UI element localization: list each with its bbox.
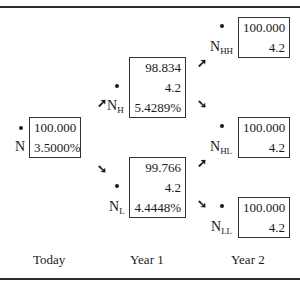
- node-nhh-price: 100.000: [243, 18, 285, 38]
- node-nhl-coupon: 4.2: [243, 138, 285, 158]
- node-label-nl: NL: [109, 199, 125, 219]
- arrow-up-icon: ➚: [197, 157, 207, 169]
- node-dot-nhl: [220, 124, 224, 128]
- node-nh-coupon: 4.2: [134, 78, 181, 98]
- node-box-nhh: 100.000 4.2: [238, 17, 290, 58]
- node-label-nll: NLL: [211, 219, 232, 239]
- node-nl-rate: 4.4448%: [134, 198, 181, 218]
- arrow-up-icon: ➚: [197, 57, 207, 69]
- node-nh-price: 98.834: [134, 58, 181, 78]
- arrow-down-icon: ➘: [97, 163, 107, 175]
- arrow-up-icon: ➚: [97, 97, 107, 109]
- arrow-down-icon: ➘: [197, 98, 207, 110]
- node-nhh-coupon: 4.2: [243, 38, 285, 58]
- node-nll-price: 100.000: [243, 198, 285, 218]
- node-dot-nl: [115, 184, 119, 188]
- node-nl-coupon: 4.2: [134, 178, 181, 198]
- node-box-nhl: 100.000 4.2: [238, 117, 290, 158]
- node-nll-coupon: 4.2: [243, 218, 285, 238]
- node-dot-n: [19, 126, 23, 130]
- node-dot-nh: [115, 84, 119, 88]
- node-label-nhh: NHH: [210, 39, 233, 59]
- node-box-n: 100.000 3.5000%: [29, 117, 81, 158]
- period-year-1: Year 1: [130, 252, 164, 268]
- node-nhl-price: 100.000: [243, 118, 285, 138]
- node-label-nh: NH: [107, 98, 124, 118]
- node-dot-nhh: [220, 24, 224, 28]
- node-label-nhl: NHL: [210, 139, 232, 159]
- node-nh-rate: 5.4289%: [134, 98, 181, 118]
- period-year-2: Year 2: [231, 252, 265, 268]
- period-today: Today: [33, 252, 65, 268]
- node-n-price: 100.000: [34, 118, 76, 138]
- node-box-nl: 99.766 4.2 4.4448%: [129, 157, 186, 218]
- bottom-rule: [0, 278, 300, 280]
- node-box-nh: 98.834 4.2 5.4289%: [129, 57, 186, 118]
- arrow-down-icon: ➘: [197, 198, 207, 210]
- node-dot-nll: [220, 204, 224, 208]
- node-box-nll: 100.000 4.2: [238, 197, 290, 238]
- top-rule: [0, 6, 300, 8]
- node-nl-price: 99.766: [134, 158, 181, 178]
- node-label-n: N: [15, 139, 25, 155]
- node-n-rate: 3.5000%: [34, 138, 76, 158]
